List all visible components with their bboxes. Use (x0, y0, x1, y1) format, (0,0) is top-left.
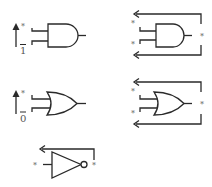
input-marker-label: * (21, 22, 25, 31)
input-wire-top (32, 95, 51, 99)
constant-label: 0 (20, 113, 26, 124)
panel-or-feedback: * * * (131, 79, 204, 128)
output-label: * (92, 161, 96, 170)
up-arrowhead-icon (13, 23, 20, 30)
and-gate-icon (156, 24, 184, 47)
not-gate-icon (52, 152, 81, 178)
input-wire-bottom (32, 108, 51, 112)
input-top-label: * (131, 19, 135, 28)
output-label: * (200, 100, 204, 109)
up-arrowhead-icon (13, 90, 20, 97)
panel-not-feedback: * * (33, 146, 96, 179)
panel-or-constant: * 0 (13, 89, 87, 124)
input-wire-top (140, 27, 156, 31)
input-marker-label: * (21, 89, 25, 98)
constant-label: 1 (20, 45, 26, 56)
logic-gate-diagram: * 1 * * * * 0 (0, 0, 212, 187)
input-wire-bottom (140, 40, 156, 44)
input-wire-top (140, 95, 158, 99)
panel-and-feedback: * * * (131, 11, 204, 59)
or-gate-icon (47, 92, 77, 115)
feedback-wire-bottom (136, 114, 201, 124)
input-wire-bottom (140, 108, 158, 112)
and-gate-icon (48, 24, 78, 47)
feedback-wire-top (136, 82, 201, 92)
feedback-wire-top (136, 14, 201, 24)
input-bottom-label: * (131, 109, 135, 118)
inverter-bubble-icon (81, 162, 87, 168)
input-bottom-label: * (131, 40, 135, 49)
input-label: * (33, 161, 37, 170)
input-wire-top (32, 28, 48, 31)
or-gate-icon (154, 92, 184, 115)
input-top-label: * (131, 87, 135, 96)
output-label: * (200, 32, 204, 41)
input-wire-bottom (32, 41, 48, 45)
panel-and-constant: * 1 (13, 22, 87, 56)
